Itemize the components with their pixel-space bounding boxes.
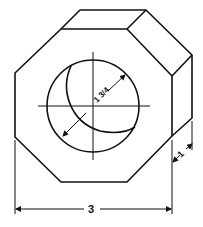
bore-diameter-label: 1 3/4 (92, 85, 111, 104)
drawing-canvas: 1 3/4 3 1 (0, 0, 203, 227)
octagon-block-drawing: 1 3/4 3 1 (0, 0, 203, 227)
width-label: 3 (88, 203, 94, 215)
centerlines (38, 52, 150, 160)
